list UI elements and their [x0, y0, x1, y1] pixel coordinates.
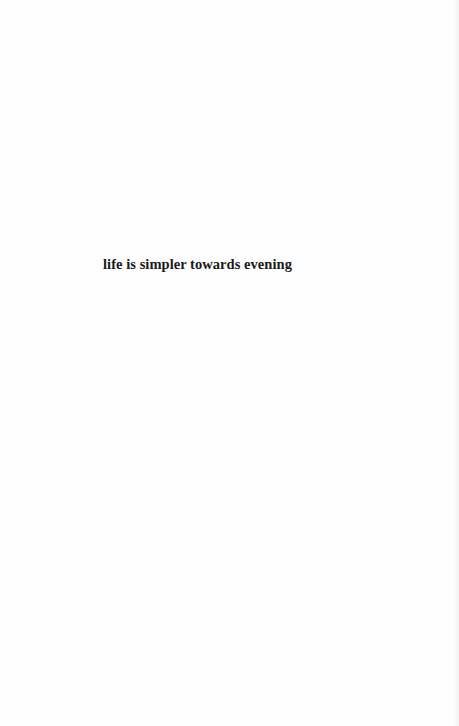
book-page: life is simpler towards evening [0, 0, 459, 726]
page-edge-shadow [453, 0, 459, 726]
epigraph-text: life is simpler towards evening [103, 255, 292, 273]
